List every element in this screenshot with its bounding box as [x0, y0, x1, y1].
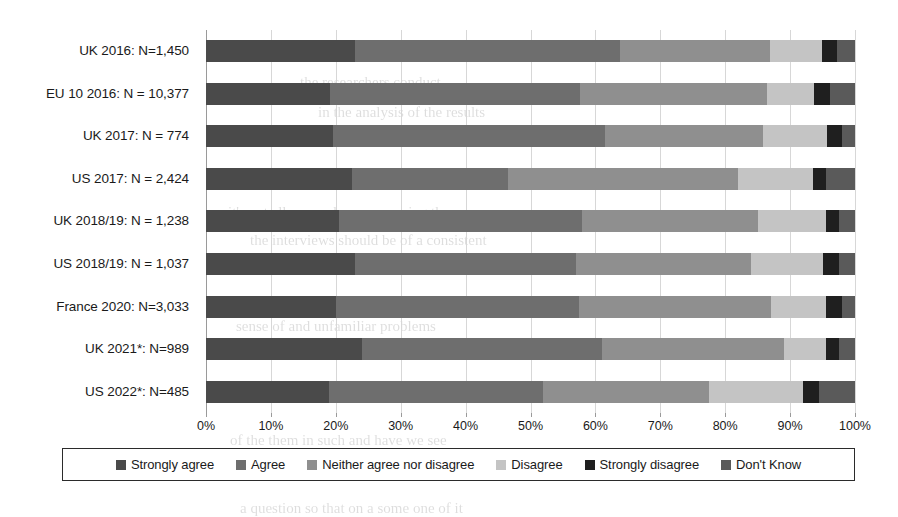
- bar-segment: [206, 40, 355, 62]
- legend-swatch-icon: [496, 460, 506, 470]
- bar-segment: [814, 83, 830, 105]
- bar-segment: [543, 381, 708, 403]
- axis-tick-mark: [660, 413, 661, 417]
- bar-segment: [620, 40, 770, 62]
- axis-tick-label: 100%: [839, 419, 871, 433]
- legend-item[interactable]: Neither agree nor disagree: [307, 457, 474, 472]
- axis-tick-label: 80%: [713, 419, 738, 433]
- legend-label: Don't Know: [736, 457, 801, 472]
- legend-item[interactable]: Strongly agree: [116, 457, 214, 472]
- category-label: US 2018/19: N = 1,037: [0, 253, 198, 275]
- axis-tick-mark: [725, 413, 726, 417]
- bar-row: [206, 210, 855, 232]
- legend-item[interactable]: Agree: [236, 457, 285, 472]
- bar-segment: [839, 338, 855, 360]
- bar-segment: [355, 40, 620, 62]
- legend-item[interactable]: Strongly disagree: [585, 457, 699, 472]
- bar-segment: [336, 296, 579, 318]
- legend-label: Agree: [251, 457, 285, 472]
- bar-row: [206, 296, 855, 318]
- bar-segment: [352, 168, 508, 190]
- legend-item[interactable]: Don't Know: [721, 457, 801, 472]
- bar-segment: [576, 253, 751, 275]
- axis-tick-label: 20%: [323, 419, 348, 433]
- axis-tick-label: 60%: [583, 419, 608, 433]
- legend-swatch-icon: [236, 460, 246, 470]
- axis-tick-mark: [595, 413, 596, 417]
- axis-tick-label: 40%: [453, 419, 478, 433]
- bar-segment: [355, 253, 576, 275]
- plot-area: [206, 30, 855, 413]
- axis-tick-label: 70%: [648, 419, 673, 433]
- legend-label: Strongly agree: [131, 457, 214, 472]
- bar-segment: [837, 40, 855, 62]
- legend-swatch-icon: [721, 460, 731, 470]
- bar-row: [206, 83, 855, 105]
- category-label: US 2022*: N=485: [0, 381, 198, 403]
- bar-segment: [206, 253, 355, 275]
- bar-segment: [826, 210, 839, 232]
- legend-swatch-icon: [307, 460, 317, 470]
- bar-segment: [839, 253, 855, 275]
- bar-row: [206, 381, 855, 403]
- bar-row: [206, 338, 855, 360]
- bar-segment: [605, 125, 763, 147]
- gridline: [855, 30, 856, 413]
- bar-segment: [826, 168, 855, 190]
- bar-row: [206, 40, 855, 62]
- bar-segment: [206, 125, 333, 147]
- legend-item[interactable]: Disagree: [496, 457, 562, 472]
- bar-segment: [508, 168, 738, 190]
- category-label: UK 2021*: N=989: [0, 338, 198, 360]
- axis-tick-label: 30%: [388, 419, 413, 433]
- bar-segment: [206, 296, 336, 318]
- bar-segment: [842, 296, 855, 318]
- bar-series-container: [206, 30, 855, 413]
- category-label: UK 2016: N=1,450: [0, 40, 198, 62]
- bar-segment: [206, 168, 352, 190]
- bar-segment: [738, 168, 813, 190]
- legend-swatch-icon: [116, 460, 126, 470]
- bar-segment: [582, 210, 757, 232]
- bar-segment: [751, 253, 822, 275]
- bar-segment: [813, 168, 826, 190]
- category-label: UK 2018/19: N = 1,238: [0, 210, 198, 232]
- legend-label: Strongly disagree: [600, 457, 699, 472]
- category-label: UK 2017: N = 774: [0, 125, 198, 147]
- axis-tick-label: 0%: [197, 419, 215, 433]
- stacked-bar-chart: UK 2016: N=1,450EU 10 2016: N = 10,377UK…: [0, 0, 898, 517]
- bar-segment: [819, 381, 855, 403]
- category-label: US 2017: N = 2,424: [0, 168, 198, 190]
- bar-segment: [826, 296, 842, 318]
- axis-tick-mark: [855, 413, 856, 417]
- axis-tick-mark: [336, 413, 337, 417]
- bar-segment: [709, 381, 803, 403]
- axis-tick-mark: [206, 413, 207, 417]
- bar-segment: [333, 125, 605, 147]
- bar-segment: [579, 296, 770, 318]
- legend-label: Neither agree nor disagree: [322, 457, 474, 472]
- axis-tick-mark: [271, 413, 272, 417]
- bar-segment: [206, 338, 362, 360]
- bar-row: [206, 253, 855, 275]
- value-axis: 0%10%20%30%40%50%60%70%80%90%100%: [206, 413, 855, 439]
- bar-segment: [827, 125, 843, 147]
- axis-tick-label: 90%: [778, 419, 803, 433]
- bar-row: [206, 125, 855, 147]
- bar-segment: [784, 338, 826, 360]
- bar-segment: [362, 338, 602, 360]
- category-label: EU 10 2016: N = 10,377: [0, 83, 198, 105]
- bar-segment: [842, 125, 855, 147]
- chart-legend: Strongly agreeAgreeNeither agree nor dis…: [62, 448, 855, 481]
- legend-label: Disagree: [511, 457, 562, 472]
- bar-segment: [758, 210, 826, 232]
- bar-segment: [770, 40, 822, 62]
- bar-segment: [329, 381, 543, 403]
- bar-segment: [767, 83, 814, 105]
- bar-row: [206, 168, 855, 190]
- axis-tick-mark: [790, 413, 791, 417]
- bar-segment: [206, 210, 339, 232]
- legend-swatch-icon: [585, 460, 595, 470]
- bar-segment: [763, 125, 826, 147]
- bar-segment: [826, 338, 839, 360]
